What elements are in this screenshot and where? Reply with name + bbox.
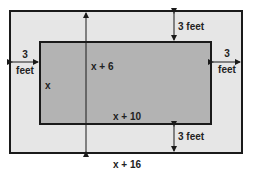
inner-height-label: x [45,80,51,91]
right-margin-value: 3 [224,48,230,59]
right-margin-unit: feet [218,64,236,75]
outer-width-label: x + 16 [113,159,142,170]
bottom-margin-label: 3 feet [178,131,205,142]
top-margin-label: 3 feet [178,21,205,32]
border-diagram: 3 feet 3 feet 3 feet 3 feet x x + 6 x + … [0,0,254,173]
left-margin-unit: feet [16,65,34,76]
inner-width-label: x + 10 [113,111,142,122]
left-margin-value: 3 [22,49,28,60]
outer-height-label: x + 6 [91,61,114,72]
